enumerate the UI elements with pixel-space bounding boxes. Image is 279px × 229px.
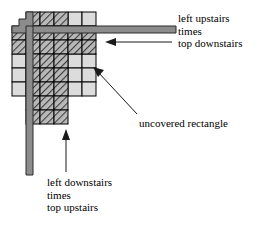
- light-cell: [68, 82, 82, 96]
- hatched-cell: [54, 54, 68, 68]
- label-left-upstairs: left upstairs times top downstairs: [178, 12, 242, 50]
- hatched-cell: [54, 96, 68, 110]
- light-cell: [82, 82, 96, 96]
- hatched-cell: [40, 96, 54, 110]
- light-cell: [68, 68, 82, 82]
- hatched-cell: [82, 40, 96, 54]
- label-left-upstairs-line2: times: [178, 25, 242, 38]
- hatched-cell: [40, 12, 54, 26]
- light-cell: [12, 82, 26, 96]
- hatched-cell: [54, 40, 68, 54]
- hatched-cell: [40, 54, 54, 68]
- label-left-upstairs-line3: top downstairs: [178, 37, 242, 50]
- label-left-downstairs-line1: left downstairs: [47, 176, 112, 189]
- arrow-left-upstairs: [105, 38, 172, 46]
- hatched-cell: [54, 82, 68, 96]
- label-left-upstairs-line1: left upstairs: [178, 12, 242, 25]
- label-uncovered-rectangle: uncovered rectangle: [139, 117, 228, 130]
- arrow-uncovered-rectangle: [93, 67, 137, 114]
- hatched-cell: [40, 110, 54, 124]
- light-cell: [82, 54, 96, 68]
- light-cell: [82, 12, 96, 26]
- light-cell: [12, 54, 26, 68]
- light-cell: [12, 68, 26, 82]
- hatched-cell: [40, 68, 54, 82]
- hatched-cell: [54, 12, 68, 26]
- arrow-left-downstairs: [62, 129, 70, 172]
- light-cell: [68, 12, 82, 26]
- hatched-cell: [54, 110, 68, 124]
- light-cell: [82, 68, 96, 82]
- label-left-downstairs: left downstairs times top upstairs: [47, 176, 112, 214]
- hatched-cell: [54, 68, 68, 82]
- left-staircase-bar: [26, 26, 33, 175]
- hatched-cell: [40, 40, 54, 54]
- label-left-downstairs-line3: top upstairs: [47, 201, 112, 214]
- hatched-cell: [12, 40, 26, 54]
- figure-canvas: left upstairs times top downstairs uncov…: [0, 0, 279, 229]
- label-uncovered-line1: uncovered rectangle: [139, 117, 228, 130]
- hatched-cell: [68, 40, 82, 54]
- light-cell: [68, 54, 82, 68]
- hatched-cell: [40, 82, 54, 96]
- label-left-downstairs-line2: times: [47, 189, 112, 202]
